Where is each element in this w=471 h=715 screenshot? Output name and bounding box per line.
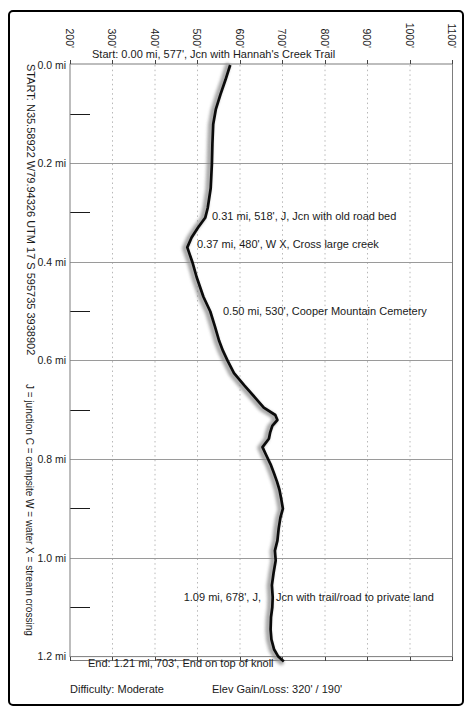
end-annotation: End: 1.21 mi, 703', End on top of knoll [88, 657, 274, 670]
mile-tick-label: 0.6 mi [26, 354, 66, 367]
elevation-tick-label: 1000' [404, 23, 416, 48]
elevation-tick-label: 800' [319, 28, 331, 48]
mile-tick-label: 1.2 mi [26, 650, 66, 663]
elevation-tick-label: 200' [64, 28, 76, 48]
start-coordinates-label: START: N35.58922 W79.94326 UTM 17 S 5957… [24, 64, 37, 355]
profile-shadow [185, 66, 281, 663]
difficulty-label: Difficulty: Moderate [70, 683, 164, 696]
trail-elevation-profile-page: 200'300'400'500'600'700'800'900'1000'110… [0, 0, 471, 715]
waypoint-annotation-037: 0.37 mi, 480', W X, Cross large creek [197, 238, 379, 251]
elevation-tick-label: 700' [276, 28, 288, 48]
waypoint-annotation-109-left: 1.09 mi, 678', J, [184, 591, 261, 604]
legend-key-label: J = junction C = campsite W = water X = … [23, 384, 36, 636]
start-annotation: Start: 0.00 mi, 577', Jcn with Hannah's … [92, 48, 335, 61]
elevation-profile-chart [0, 0, 471, 715]
elev-gain-loss-label: Elev Gain/Loss: 320' / 190' [212, 683, 342, 696]
elevation-tick-label: 1100' [446, 23, 458, 48]
elevation-tick-label: 300' [106, 28, 118, 48]
waypoint-annotation-109-right: Jcn with trail/road to private land [276, 591, 434, 604]
waypoint-annotation-050: 0.50 mi, 530', Cooper Mountain Cemetery [223, 305, 427, 318]
elevation-tick-label: 500' [191, 28, 203, 48]
waypoint-annotation-031: 0.31 mi, 518', J, Jcn with old road bed [212, 210, 396, 223]
elevation-tick-label: 900' [361, 28, 373, 48]
elevation-tick-label: 400' [149, 28, 161, 48]
elevation-tick-label: 600' [234, 28, 246, 48]
